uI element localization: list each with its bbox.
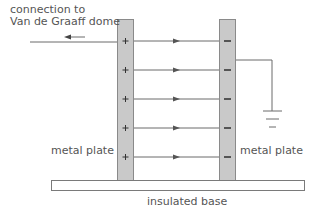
- earth-wire: [236, 60, 272, 111]
- connection-label-line2: Van de Graaff dome: [10, 16, 120, 28]
- capacitor-diagram: [0, 0, 316, 209]
- ground-icon: [263, 111, 282, 127]
- right-plate-label: metal plate: [240, 145, 303, 157]
- field-arrow-icons: [173, 39, 180, 160]
- left-plate-label: metal plate: [51, 145, 114, 157]
- base-label: insulated base: [147, 196, 227, 208]
- insulated-base: [52, 181, 305, 191]
- left-arrow-icon: [64, 35, 85, 40]
